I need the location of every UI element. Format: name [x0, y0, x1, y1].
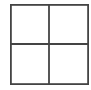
grid-2x2-icon: [10, 4, 89, 85]
grid-icon-graphic: [10, 4, 89, 85]
